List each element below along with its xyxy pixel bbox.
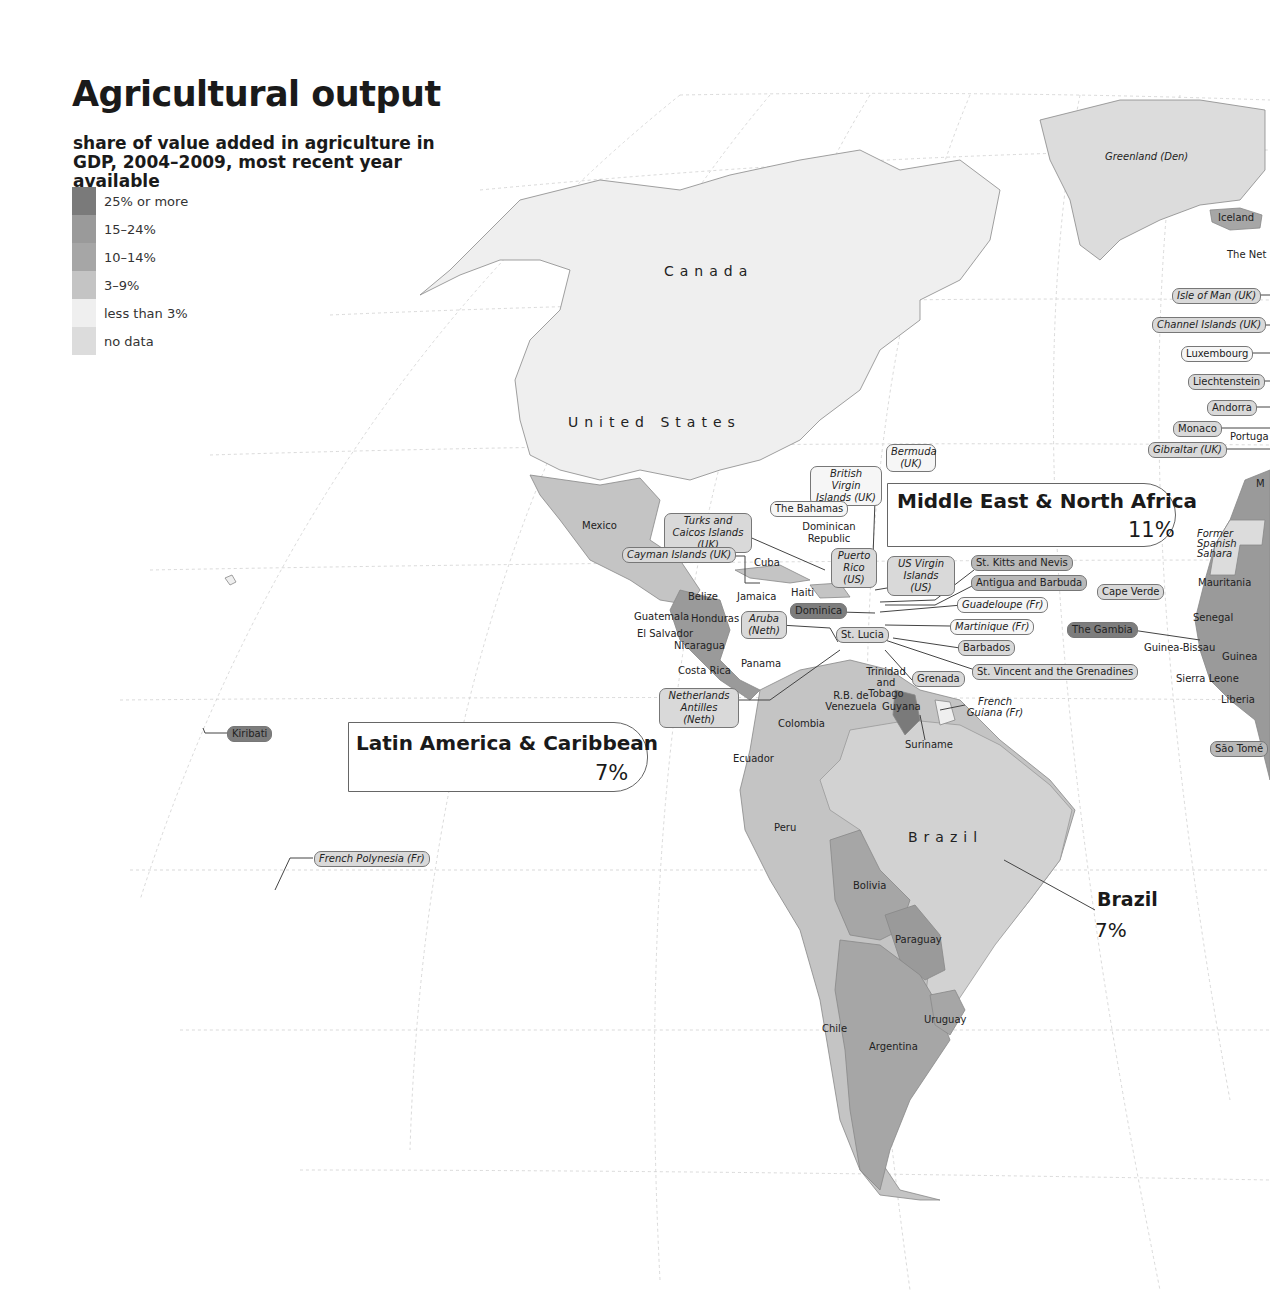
label-guinea-bissau: Guinea-Bissau — [1144, 642, 1215, 653]
label-mauritania: Mauritania — [1198, 577, 1251, 588]
pill-luxembourg: Luxembourg — [1181, 346, 1253, 362]
label-iceland: Iceland — [1218, 212, 1254, 223]
label-ecuador: Ecuador — [733, 753, 774, 764]
label-brazil: Brazil — [908, 829, 983, 845]
label-liberia: Liberia — [1221, 694, 1255, 705]
legend-item-less-than-3: less than 3% — [72, 299, 188, 327]
legend-swatch — [72, 243, 96, 271]
pill-kiribati: Kiribati — [227, 726, 272, 742]
legend-label: 10–14% — [104, 250, 156, 265]
label-guatemala: Guatemala — [634, 611, 689, 622]
pill-bermuda: Bermuda (UK) — [886, 444, 936, 472]
map-subtitle: share of value added in agriculture in G… — [73, 134, 453, 191]
legend-item-25-or-more: 25% or more — [72, 187, 188, 215]
greenland-shape — [1040, 100, 1265, 260]
label-chile: Chile — [822, 1023, 847, 1034]
label-uruguay: Uruguay — [924, 1014, 967, 1025]
callout-name-brazil: Brazil — [1097, 888, 1158, 910]
label-portugal: Portuga — [1230, 431, 1269, 442]
pill-cayman: Cayman Islands (UK) — [622, 547, 736, 563]
legend-label: 25% or more — [104, 194, 188, 209]
legend-swatch — [72, 327, 96, 355]
label-venezuela: R.B. de Venezuela — [822, 690, 880, 712]
label-greenland: Greenland (Den) — [1105, 151, 1188, 162]
pill-st-kitts: St. Kitts and Nevis — [971, 555, 1073, 571]
pill-british-virgin-islands: British Virgin Islands (UK) — [810, 466, 882, 506]
label-dominican-republic: Dominican Republic — [800, 521, 858, 545]
label-united-states: United States — [568, 414, 741, 430]
pill-french-polynesia: French Polynesia (Fr) — [314, 851, 430, 867]
pill-aruba: Aruba (Neth) — [741, 611, 787, 639]
label-sierra-leone: Sierra Leone — [1176, 673, 1239, 684]
label-paraguay: Paraguay — [895, 934, 942, 945]
label-peru: Peru — [774, 822, 796, 833]
pill-bahamas: The Bahamas — [770, 501, 848, 517]
pill-monaco: Monaco — [1173, 421, 1222, 437]
label-jamaica: Jamaica — [737, 591, 776, 602]
region-name-lac: Latin America & Caribbean — [356, 731, 658, 755]
label-french-guiana: French Guiana (Fr) — [960, 696, 1030, 718]
label-honduras: Honduras — [691, 613, 739, 624]
pill-isle-of-man: Isle of Man (UK) — [1172, 288, 1261, 304]
legend-label: less than 3% — [104, 306, 188, 321]
label-senegal: Senegal — [1193, 612, 1233, 623]
legend-swatch — [72, 187, 96, 215]
label-colombia: Colombia — [778, 718, 825, 729]
pill-grenada: Grenada — [912, 671, 965, 687]
legend-item-15-24: 15–24% — [72, 215, 188, 243]
label-argentina: Argentina — [869, 1041, 918, 1052]
map-canvas — [0, 0, 1270, 1299]
pill-cape-verde: Cape Verde — [1097, 584, 1164, 600]
west-africa-shape — [1195, 470, 1270, 780]
pill-andorra: Andorra — [1207, 400, 1257, 416]
legend-label: 15–24% — [104, 222, 156, 237]
label-cuba: Cuba — [754, 557, 780, 568]
legend-item-10-14: 10–14% — [72, 243, 188, 271]
label-haiti: Haiti — [791, 587, 814, 598]
region-value-lac: 7% — [595, 761, 628, 785]
pill-us-virgin-islands: US Virgin Islands (US) — [887, 556, 955, 596]
region-value-mena: 11% — [1128, 518, 1175, 542]
legend-item-3-9: 3–9% — [72, 271, 188, 299]
legend-label: 3–9% — [104, 278, 139, 293]
label-bolivia: Bolivia — [853, 880, 886, 891]
label-former-spanish-sahara: Former Spanish Sahara — [1197, 529, 1237, 559]
region-name-mena: Middle East & North Africa — [897, 489, 1197, 513]
label-morocco: M — [1256, 478, 1265, 489]
callout-value-brazil: 7% — [1095, 918, 1127, 942]
pill-sao-tome: São Tomé — [1210, 741, 1268, 757]
map-title: Agricultural output — [72, 74, 441, 114]
legend-swatch — [72, 299, 96, 327]
pill-dominica: Dominica — [790, 603, 847, 619]
pill-guadeloupe: Guadeloupe (Fr) — [957, 597, 1048, 613]
pill-barbados: Barbados — [958, 640, 1015, 656]
pill-st-vincent: St. Vincent and the Grenadines — [972, 664, 1138, 680]
pill-liechtenstein: Liechtenstein — [1188, 374, 1265, 390]
label-guyana: Guyana — [882, 701, 921, 712]
pill-st-lucia: St. Lucia — [836, 627, 889, 643]
pill-netherlands-antilles: Netherlands Antilles (Neth) — [659, 688, 739, 728]
legend-swatch — [72, 215, 96, 243]
pill-antigua: Antigua and Barbuda — [971, 575, 1087, 591]
label-nicaragua: Nicaragua — [674, 640, 725, 651]
label-netherlands: The Net — [1227, 249, 1266, 260]
pill-gibraltar: Gibraltar (UK) — [1148, 442, 1227, 458]
pill-channel-islands: Channel Islands (UK) — [1152, 317, 1266, 333]
pill-martinique: Martinique (Fr) — [950, 619, 1034, 635]
pill-puerto-rico: Puerto Rico (US) — [831, 548, 877, 588]
legend-label: no data — [104, 334, 154, 349]
label-suriname: Suriname — [905, 739, 953, 750]
north-america-shape — [420, 150, 1000, 480]
label-el-salvador: El Salvador — [637, 628, 693, 639]
label-canada: Canada — [664, 263, 753, 279]
label-costa-rica: Costa Rica — [678, 665, 731, 676]
label-guinea: Guinea — [1222, 651, 1257, 662]
label-mexico: Mexico — [582, 520, 617, 531]
legend: 25% or more 15–24% 10–14% 3–9% less than… — [72, 187, 188, 355]
legend-item-no-data: no data — [72, 327, 188, 355]
label-belize: Belize — [688, 591, 718, 602]
label-panama: Panama — [741, 658, 781, 669]
legend-swatch — [72, 271, 96, 299]
hawaii-shape — [225, 575, 236, 585]
pill-gambia: The Gambia — [1067, 622, 1138, 638]
